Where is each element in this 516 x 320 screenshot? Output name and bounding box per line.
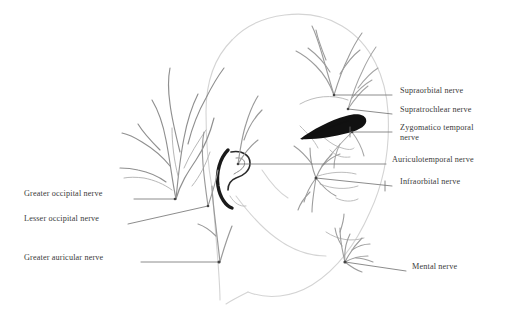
label-greater-auricular-nerve: Greater auricular nerve [24,253,103,263]
endpoint-supratrochlear [347,108,350,111]
label-greater-occipital-nerve: Greater occipital nerve [24,189,102,199]
label-zygomaticotemporal-nerve: Zygomatico temporal nerve [400,123,484,142]
label-mental-nerve: Mental nerve [412,262,457,272]
endpoint-mental [343,260,346,263]
endpoint-infraorbital [315,177,318,180]
anatomy-figure: Supraorbital nerve Supratrochlear nerve … [0,0,516,320]
endpoint-lesser-occipital [207,205,210,208]
label-supratrochlear-nerve: Supratrochlear nerve [400,105,471,115]
label-lesser-occipital-nerve: Lesser occipital nerve [24,214,99,224]
label-auriculotemporal-nerve: Auriculotemporal nerve [392,155,474,165]
label-supraorbital-nerve: Supraorbital nerve [400,86,463,96]
endpoint-zygomaticotemporal [351,131,354,134]
label-infraorbital-nerve: Infraorbital nerve [400,177,460,187]
endpoint-greater-auricular [218,261,221,264]
endpoint-supraorbital [333,94,336,97]
endpoint-auriculotemporal [237,163,240,166]
endpoint-greater-occipital [174,198,177,201]
